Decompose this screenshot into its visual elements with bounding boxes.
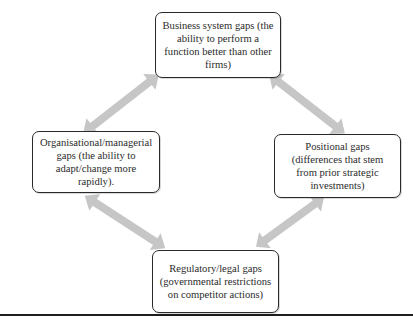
- node-line: Regulatory/legal gaps: [160, 262, 272, 275]
- node-line: from prior strategic: [292, 166, 384, 179]
- node-line: ability to perform a: [163, 32, 274, 45]
- node-text: Positional gaps (differences that stem f…: [292, 140, 384, 192]
- node-text: Organisational/managerial gaps (the abil…: [40, 136, 152, 188]
- node-text: Regulatory/legal gaps (governmental rest…: [160, 262, 272, 301]
- node-line: Organisational/managerial: [40, 136, 152, 149]
- node-line: on competitor actions): [160, 288, 272, 301]
- node-line: firms): [163, 58, 274, 71]
- node-line: gaps (the ability to: [40, 149, 152, 162]
- node-text: Business system gaps (the ability to per…: [163, 19, 274, 71]
- node-line: adapt/change more: [40, 162, 152, 175]
- node-line: rapidly).: [40, 175, 152, 188]
- node-line: function better than other: [163, 45, 274, 58]
- bottom-rule-divider: [0, 314, 413, 316]
- node-business-system-gaps: Business system gaps (the ability to per…: [155, 12, 281, 78]
- node-line: (governmental restrictions: [160, 275, 272, 288]
- double-arrow-organisational-regulatory: [79, 187, 170, 256]
- gaps-cycle-diagram: Business system gaps (the ability to per…: [0, 0, 413, 325]
- node-line: Business system gaps (the: [163, 19, 274, 32]
- double-arrow-positional-regulatory: [250, 189, 330, 255]
- node-regulatory-legal-gaps: Regulatory/legal gaps (governmental rest…: [152, 250, 279, 313]
- double-arrow-business-positional: [263, 67, 351, 142]
- node-line: Positional gaps: [292, 140, 384, 153]
- node-positional-gaps: Positional gaps (differences that stem f…: [274, 134, 401, 198]
- node-organisational-managerial-gaps: Organisational/managerial gaps (the abil…: [32, 131, 160, 193]
- node-line: investments): [292, 179, 384, 192]
- node-line: (differences that stem: [292, 153, 384, 166]
